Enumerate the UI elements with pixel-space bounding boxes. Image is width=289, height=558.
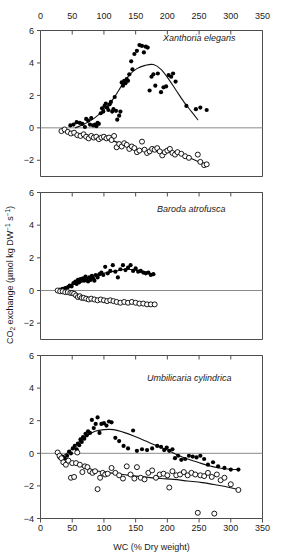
top-axis-tick-label: 150 [128,11,143,21]
panel-3-open-datapoint [150,468,155,473]
bottom-axis-tick-label: 0 [38,523,43,533]
panel-1-filled-datapoint [142,50,146,54]
panel-3-open-datapoint [80,470,85,475]
panel-3-filled-datapoint [191,454,195,458]
x-axis-title: WC (% Dry weight) [113,542,190,552]
panel-1-filled-datapoint [101,110,105,114]
top-axis-tick-label: 250 [192,11,207,21]
panel-3-open-datapoint [95,487,100,492]
panel-2-filled-datapoint [121,263,125,267]
panel-3-filled-datapoint [187,454,191,458]
panel-3-filled-datapoint [140,447,144,451]
panel-1-filled-datapoint [130,67,134,71]
panel-1-filled-datapoint [153,84,157,88]
panel-3-filled-datapoint [135,449,139,453]
panel-3-filled-datapoint [121,444,125,448]
panel-2-filled-datapoint [151,272,155,276]
panel-3-filled-datapoint [216,464,220,468]
panel-3-filled-datapoint [176,454,180,458]
panel-3-open-datapoint [222,475,227,480]
panel-2-ytick-label: 4 [29,220,34,230]
panel-1-filled-datapoint [127,72,131,76]
panel-2-filled-datapoint [116,275,120,279]
bottom-axis-tick-label: 300 [223,523,238,533]
panel-2-filled-datapoint [113,270,117,274]
panel-3-open-datapoint [205,470,210,475]
panel-3-open-datapoint [120,476,125,481]
panel-2-filled-datapoint [101,273,105,277]
panel-1-filled-datapoint [148,88,152,92]
panel-1-filled-datapoint [118,110,122,114]
panel-1-filled-datapoint [171,71,175,75]
panel-3-open-datapoint [214,472,219,477]
panel-3-filled-datapoint [131,428,135,432]
panel-3-open-datapoint [165,473,170,478]
panel-3-filled-datapoint [95,415,99,419]
panel-1-filled-datapoint [115,118,119,122]
panel-1-filled-datapoint [113,95,117,99]
panel-3-ytick-label: 2 [29,416,34,426]
top-axis-tick-label: 300 [223,11,238,21]
panel-1-ytick-label: 4 [29,58,34,68]
panel-1-filled-datapoint [194,107,198,111]
panel-3-filled-datapoint [90,418,94,422]
panel-2-filled-datapoint [111,263,115,267]
panel-3-open-datapoint [77,462,82,467]
panel-3-ytick-label: −2 [24,481,34,491]
panel-1-filled-datapoint [174,80,178,84]
panel-3-filled-datapoint [229,468,233,472]
panel-3-open-datapoint [132,476,137,481]
panel-3-filled-datapoint [92,426,96,430]
panel-1-filled-datapoint [114,109,118,113]
panel-3-open-datapoint [167,485,172,490]
panel-1-filled-datapoint [140,44,144,48]
panel-3-filled-datapoint [202,457,206,461]
panel-3-filled-datapoint [145,448,149,452]
figure-background [0,0,289,558]
panel-3-ytick-label: 6 [29,351,34,361]
top-axis-tick-label: 0 [38,11,43,21]
panel-1-filled-datapoint [198,105,202,109]
panel-1-ytick-label: 0 [29,123,34,133]
panel-3-filled-datapoint [198,454,202,458]
top-axis-tick-label: 350 [255,11,270,21]
panel-3-open-datapoint [72,474,77,479]
panel-3-filled-datapoint [104,423,108,427]
panel-1-ytick-label: 6 [29,26,34,36]
panel-2-filled-datapoint [103,265,107,269]
panel-3-filled-datapoint [211,460,215,464]
panel-3-filled-datapoint [183,457,187,461]
panel-3-filled-datapoint [94,422,98,426]
panel-1-open-datapoint [112,133,117,138]
panel-3-open-datapoint [228,482,233,487]
panel-1-filled-datapoint [83,125,87,129]
panel-3-filled-datapoint [97,431,101,435]
panel-1-filled-datapoint [104,101,108,105]
panel-1-filled-datapoint [109,100,113,104]
bottom-axis-tick-label: 100 [96,523,111,533]
panel-3-ytick-label: 0 [29,449,34,459]
panel-1-open-datapoint [204,162,209,167]
panel-2-species-label: Baroda atrofusca [157,204,226,214]
panel-1-filled-datapoint [106,108,110,112]
bottom-axis-tick-label: 50 [67,523,77,533]
panel-1-filled-datapoint [126,79,130,83]
panel-1-filled-datapoint [97,122,101,126]
panel-3-open-datapoint [105,471,110,476]
panel-1-filled-datapoint [164,84,168,88]
panel-3-filled-datapoint [159,445,163,449]
bottom-axis-tick-label: 200 [160,523,175,533]
panel-3-open-datapoint [212,511,217,516]
panel-2-filled-datapoint [118,267,122,271]
panel-3-filled-datapoint [117,439,121,443]
panel-1-filled-datapoint [184,104,188,108]
panel-2-filled-datapoint [128,263,132,267]
panel-3-open-datapoint [236,487,241,492]
panel-1-filled-datapoint [129,59,133,63]
panel-3-open-datapoint [209,474,214,479]
panel-3-open-datapoint [75,450,80,455]
panel-1-open-datapoint [137,148,142,153]
top-axis-tick-label: 50 [67,11,77,21]
panel-3-open-datapoint [124,464,129,469]
panel-1-ytick-label: −2 [24,155,34,165]
